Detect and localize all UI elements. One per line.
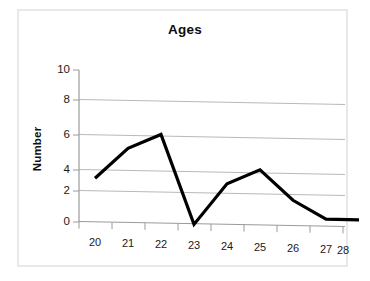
x-tick-label-24: 24: [214, 240, 240, 252]
x-tick-label-21: 21: [115, 237, 141, 249]
y-tick-label-10: 10: [44, 63, 70, 75]
x-tick-label-28: 28: [330, 244, 356, 256]
y-tick-label-0: 0: [44, 215, 70, 227]
x-tick-label-25: 25: [247, 241, 273, 253]
y-tick-label-8: 8: [44, 93, 70, 105]
x-tick-label-20: 20: [82, 236, 108, 248]
gridline-6: [79, 135, 345, 140]
y-axis-ticks: [73, 70, 79, 222]
x-tick-label-26: 26: [280, 242, 306, 254]
y-tick-label-6: 6: [44, 128, 70, 140]
x-tick-label-22: 22: [148, 238, 174, 250]
y-tick-label-2: 2: [44, 184, 70, 196]
gridlines: [79, 100, 345, 196]
chart-container: Ages Number: [0, 0, 370, 281]
y-tick-label-4: 4: [44, 163, 70, 175]
x-axis-line: [79, 222, 345, 227]
gridline-2: [79, 191, 345, 196]
data-line-series-number: [95, 135, 359, 225]
x-axis-ticks: [79, 222, 343, 234]
gridline-4: [79, 170, 345, 175]
gridline-8: [79, 100, 345, 105]
x-tick-label-23: 23: [181, 239, 207, 251]
